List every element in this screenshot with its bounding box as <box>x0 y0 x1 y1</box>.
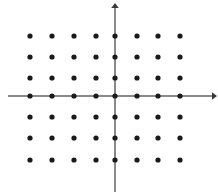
lattice-dot <box>112 93 117 98</box>
lattice-dot <box>112 75 117 80</box>
lattice-dot <box>177 114 182 119</box>
lattice-dot <box>177 75 182 80</box>
lattice-dot <box>71 135 76 140</box>
lattice-dot <box>177 157 182 162</box>
lattice-dot <box>155 75 160 80</box>
lattice-dot <box>134 93 139 98</box>
lattice-dot <box>27 75 32 80</box>
lattice-dot <box>93 93 98 98</box>
lattice-dot <box>134 114 139 119</box>
lattice-dot <box>155 114 160 119</box>
lattice-dot <box>93 157 98 162</box>
lattice-dot <box>177 135 182 140</box>
lattice-dot <box>71 93 76 98</box>
lattice-dot <box>177 54 182 59</box>
lattice-dot <box>177 33 182 38</box>
lattice-dot <box>93 33 98 38</box>
lattice-dot <box>155 135 160 140</box>
lattice-dot <box>49 54 54 59</box>
lattice-dot <box>27 93 32 98</box>
lattice-dot <box>49 114 54 119</box>
lattice-dot <box>112 33 117 38</box>
lattice-dot <box>71 33 76 38</box>
lattice-dot <box>112 54 117 59</box>
lattice-dot <box>112 135 117 140</box>
coordinate-plane-plot <box>0 0 218 196</box>
lattice-dot <box>93 54 98 59</box>
lattice-dot <box>27 114 32 119</box>
lattice-dot <box>93 135 98 140</box>
plot-background <box>0 0 218 196</box>
lattice-dot <box>71 114 76 119</box>
lattice-dot <box>134 135 139 140</box>
lattice-dot <box>49 33 54 38</box>
lattice-dot <box>134 33 139 38</box>
lattice-dot <box>49 93 54 98</box>
lattice-dot <box>155 54 160 59</box>
lattice-dot <box>93 114 98 119</box>
lattice-dot <box>27 135 32 140</box>
lattice-dot <box>134 54 139 59</box>
lattice-dot <box>177 93 182 98</box>
lattice-dot <box>71 54 76 59</box>
lattice-dot <box>27 54 32 59</box>
figure-root <box>0 0 218 196</box>
lattice-dot <box>134 75 139 80</box>
lattice-dot <box>71 75 76 80</box>
lattice-dot <box>155 93 160 98</box>
lattice-dot <box>49 75 54 80</box>
lattice-dot <box>93 75 98 80</box>
lattice-dot <box>134 157 139 162</box>
lattice-dot <box>49 135 54 140</box>
lattice-dot <box>27 33 32 38</box>
lattice-dot <box>49 157 54 162</box>
lattice-dot <box>112 114 117 119</box>
lattice-dot <box>155 33 160 38</box>
lattice-dot <box>27 157 32 162</box>
lattice-dot <box>71 157 76 162</box>
lattice-dot <box>112 157 117 162</box>
lattice-dot <box>155 157 160 162</box>
